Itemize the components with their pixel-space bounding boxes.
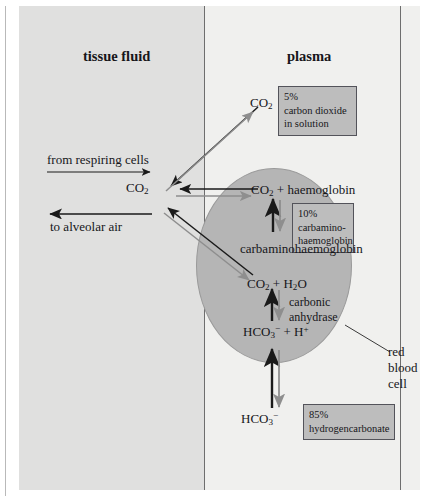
arrow-co2-up-to-plasma [166,112,253,191]
callout-co2-in-solution: 5% carbon dioxide in solution [278,86,357,136]
callout-percent: 5% [284,91,298,102]
label-red-blood-cell: red blood cell [388,344,418,392]
label-to-alveolar-air: to alveolar air [50,219,122,234]
label-carbaminohaemoglobin: carbaminohaemoglobin [240,241,363,256]
carbonic-anhydrase-text: carbonic anhydrase [289,295,338,324]
label-hydrogencarbonate-plasma: HCO3− [241,411,278,428]
callout-percent: 85% [309,409,328,420]
callout-percent: 10% [298,208,317,219]
label-co2-tissue: CO2 [126,180,149,197]
label-hydrogencarbonate-plus-proton: HCO3− + H+ [243,324,309,341]
callout-text: hydrogencarbonate [309,423,389,434]
label-co2-plasma: CO2 [250,95,273,112]
co2-transport-diagram: tissue fluid plasma from respiring cells… [0,0,438,502]
label-co2-plus-water: CO2 + H2O [247,276,307,293]
label-co2-plus-haemoglobin: CO2 + haemoglobin [251,182,355,199]
label-carbonic-anhydrase: carbonic anhydrase [289,295,338,324]
arrow-tissue-to-water [164,213,249,280]
callout-hydrogencarbonate: 85% hydrogencarbonate [303,404,395,440]
callout-text: carbon dioxide in solution [284,105,347,130]
heading-tissue-fluid: tissue fluid [83,48,150,65]
leader-line-red-blood-cell [345,325,390,352]
label-from-respiring-cells: from respiring cells [47,152,149,167]
heading-plasma: plasma [287,48,331,65]
